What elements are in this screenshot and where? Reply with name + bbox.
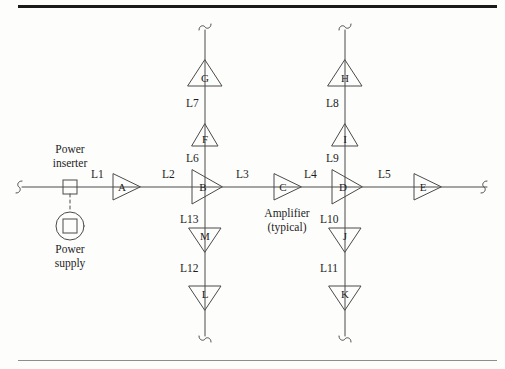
segment-label-l7: L7 bbox=[186, 97, 199, 111]
amplifier-label-g: G bbox=[201, 72, 209, 84]
segment-label-l4: L4 bbox=[304, 168, 317, 182]
amplifier-label-m: M bbox=[200, 230, 210, 242]
amplifier-label-i: I bbox=[343, 133, 347, 145]
power-supply-label: Power supply bbox=[55, 243, 86, 270]
amplifier-typical-line1: Amplifier bbox=[264, 207, 309, 221]
segment-label-l6: L6 bbox=[186, 152, 199, 166]
power-inserter-label-line1: Power bbox=[53, 143, 87, 157]
amplifier-label-d: D bbox=[339, 181, 347, 193]
segment-label-l3: L3 bbox=[236, 168, 249, 182]
segment-label-l9: L9 bbox=[326, 152, 339, 166]
amplifier-label-h: H bbox=[341, 72, 349, 84]
amplifier-label-f: F bbox=[202, 133, 208, 145]
amplifier-label-a: A bbox=[118, 181, 126, 193]
segment-label-l12: L12 bbox=[180, 262, 199, 276]
amplifier-typical-annotation: Amplifier (typical) bbox=[264, 207, 309, 234]
segment-label-l8: L8 bbox=[326, 97, 339, 111]
segment-label-l5: L5 bbox=[378, 168, 391, 182]
amplifier-label-c: C bbox=[279, 181, 286, 193]
branch-b-bottom-break-icon bbox=[199, 336, 211, 342]
power-supply-symbol bbox=[56, 212, 84, 240]
power-supply-inner-square bbox=[63, 219, 77, 233]
segment-label-l13: L13 bbox=[180, 213, 199, 227]
amplifier-label-l: L bbox=[202, 288, 209, 300]
power-supply-label-line1: Power bbox=[55, 243, 86, 257]
trunk-left-break-icon bbox=[16, 181, 22, 193]
amplifier-label-e: E bbox=[420, 181, 427, 193]
amplifier-label-k: K bbox=[341, 288, 349, 300]
power-supply-label-line2: supply bbox=[55, 257, 86, 271]
amplifier-typical-line2: (typical) bbox=[264, 221, 309, 235]
power-inserter-label-line2: inserter bbox=[53, 157, 87, 171]
segment-label-l10: L10 bbox=[320, 213, 339, 227]
amplifier-label-b: B bbox=[199, 181, 206, 193]
network-diagram bbox=[0, 0, 505, 369]
figure-page: Power inserter Power supply Amplifier (t… bbox=[0, 0, 505, 369]
segment-label-l1: L1 bbox=[91, 168, 104, 182]
segment-label-l2: L2 bbox=[162, 168, 175, 182]
power-inserter-label: Power inserter bbox=[53, 143, 87, 170]
segment-label-l11: L11 bbox=[320, 262, 338, 276]
branch-d-top-break-icon bbox=[339, 24, 351, 30]
amplifier-label-j: J bbox=[343, 230, 347, 242]
branch-d-bottom-break-icon bbox=[339, 336, 351, 342]
branch-b-top-break-icon bbox=[199, 24, 211, 30]
